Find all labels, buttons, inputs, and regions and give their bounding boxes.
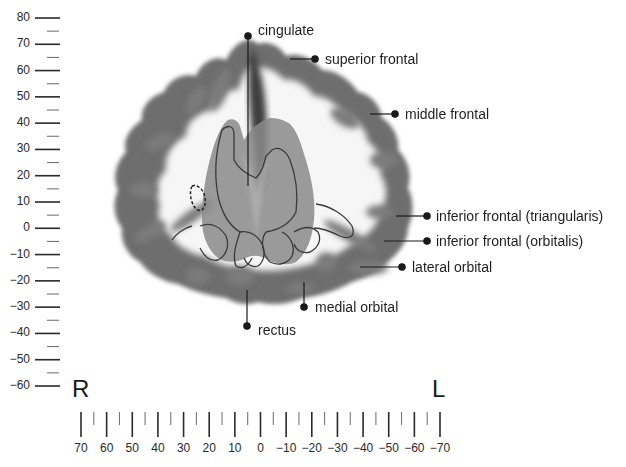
y-tick-label: 30 (2, 141, 30, 155)
label-cingulate: cingulate (258, 22, 314, 38)
y-tick-label: −10 (2, 247, 30, 261)
y-tick-label: 60 (2, 63, 30, 77)
y-tick-label: −50 (2, 352, 30, 366)
x-tick-label: −70 (425, 441, 455, 455)
y-tick-label: −40 (2, 325, 30, 339)
label-superior-frontal: superior frontal (325, 51, 418, 67)
label-medial-orbital: medial orbital (315, 299, 398, 315)
inferior-frontal-orbitalis-anchor-dot (424, 238, 430, 244)
y-tick-label: 80 (2, 10, 30, 24)
y-tick-label: 40 (2, 115, 30, 129)
y-tick-label: 70 (2, 36, 30, 50)
y-tick-label: 10 (2, 194, 30, 208)
y-tick-label: 20 (2, 168, 30, 182)
brain-slice (115, 40, 413, 304)
lateral-orbital-anchor-dot (399, 264, 405, 270)
superior-frontal-anchor-dot (312, 56, 318, 62)
y-tick-label: −20 (2, 273, 30, 287)
y-tick-label: −60 (2, 378, 30, 392)
right-hemisphere-marker: R (72, 375, 89, 403)
y-tick-label: 0 (2, 220, 30, 234)
rectus-anchor-dot (244, 323, 250, 329)
cingulate-anchor-dot (245, 33, 251, 39)
y-tick-label: 50 (2, 89, 30, 103)
label-inferior-frontal-orbitalis: inferior frontal (orbitalis) (436, 233, 583, 249)
y-axis (35, 18, 60, 386)
y-tick-label: −30 (2, 299, 30, 313)
left-hemisphere-marker: L (432, 375, 445, 403)
middle-frontal-anchor-dot (392, 111, 398, 117)
medial-orbital-anchor-dot (301, 304, 307, 310)
x-axis (81, 412, 440, 437)
label-middle-frontal: middle frontal (405, 106, 489, 122)
label-rectus: rectus (258, 322, 296, 338)
label-lateral-orbital: lateral orbital (412, 259, 492, 275)
label-inferior-frontal-triangularis: inferior frontal (triangularis) (436, 208, 603, 224)
inferior-frontal-triangularis-anchor-dot (424, 213, 430, 219)
